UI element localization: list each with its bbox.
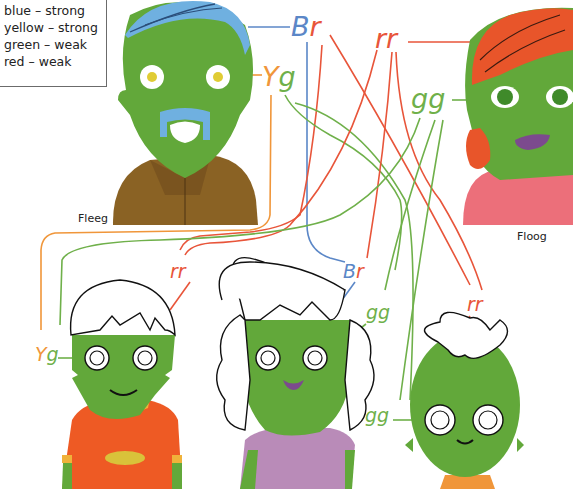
allele-Y: Y xyxy=(262,61,279,92)
floog-figure xyxy=(463,8,573,225)
fleeg-figure xyxy=(113,1,258,225)
legend-item-blue: blue – strong xyxy=(4,2,102,19)
allele-g: g xyxy=(47,343,59,365)
child3-figure xyxy=(405,312,524,489)
fleeg-name-label: Fleeg xyxy=(78,212,108,225)
allele-B: B xyxy=(291,11,310,42)
allele-g: g xyxy=(279,61,296,92)
allele-B: B xyxy=(343,260,356,282)
child1-figure xyxy=(62,280,182,489)
child3-hair-genes: rr xyxy=(467,295,483,314)
child1-eye-genes: Yg xyxy=(35,345,59,364)
child2-hair-genes: Br xyxy=(343,262,364,281)
legend-box: blue – strong yellow – strong green – we… xyxy=(0,0,107,87)
allele-Y: Y xyxy=(35,343,47,365)
child3-eye-genes: gg xyxy=(365,406,389,425)
legend-item-yellow: yellow – strong xyxy=(4,19,102,36)
child1-hair-genes: rr xyxy=(170,262,186,281)
legend-item-green: green – weak xyxy=(4,36,102,53)
floog-eye-genes: gg xyxy=(411,85,445,112)
fleeg-eye-genes: Yg xyxy=(262,63,296,90)
allele-r: r xyxy=(310,11,321,42)
legend-item-red: red – weak xyxy=(4,53,102,70)
fleeg-hair-genes: Br xyxy=(291,13,321,40)
floog-name-label: Floog xyxy=(517,230,547,243)
allele-r: r xyxy=(356,260,364,282)
child2-figure xyxy=(217,258,374,489)
child2-eye-genes: gg xyxy=(366,303,390,322)
genetics-diagram: blue – strong yellow – strong green – we… xyxy=(0,0,573,489)
floog-hair-genes: rr xyxy=(375,25,397,52)
